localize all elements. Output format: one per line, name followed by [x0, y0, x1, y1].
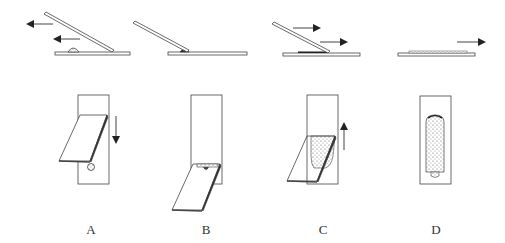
base-slide — [168, 52, 247, 55]
spreader-bottom-edge — [59, 161, 90, 162]
panel-label-d: D — [421, 222, 451, 238]
panel-d-top-view — [420, 96, 451, 184]
panel-c-top-view — [287, 95, 344, 184]
base-slide — [55, 52, 130, 55]
base-slide — [398, 53, 475, 56]
panel-c-side-view — [272, 22, 360, 56]
spreader-bottom-edge — [287, 181, 317, 182]
spreader-slide — [133, 21, 189, 52]
panel-label-b: B — [191, 222, 221, 238]
panel-b-top-view — [172, 95, 222, 211]
spreader-bottom-edge — [172, 210, 202, 211]
base-slide — [283, 53, 360, 56]
panel-a-top-view — [59, 95, 116, 184]
blood-drop — [88, 164, 95, 171]
blood-smear — [426, 115, 444, 172]
spreader-slide — [44, 12, 114, 52]
panel-b-side-view — [133, 21, 247, 55]
blood-drop — [68, 48, 79, 52]
panel-label-a: A — [76, 222, 106, 238]
panel-a-side-view — [28, 12, 130, 55]
panel-d-side-view — [398, 42, 484, 56]
blood-film — [409, 51, 467, 53]
smear-diagram — [0, 0, 505, 243]
panel-label-c: C — [308, 222, 338, 238]
spreader-slide — [272, 22, 330, 53]
blood-film — [298, 52, 328, 54]
blood-line — [197, 164, 218, 167]
drop-residue — [431, 172, 439, 178]
